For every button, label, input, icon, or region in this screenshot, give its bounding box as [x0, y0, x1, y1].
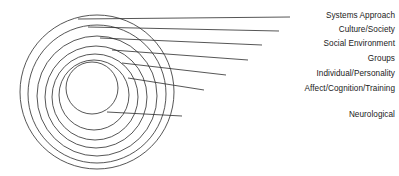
rings-group [20, 15, 174, 169]
ring-ring-5 [52, 54, 138, 140]
ring-label-6: Neurological [349, 110, 395, 120]
leader-lines-group [78, 17, 290, 116]
leader-line-0 [78, 17, 290, 19]
ring-label-4: Individual/Personality [317, 69, 395, 79]
ring-innermost [66, 62, 118, 114]
ring-label-0: Systems Approach [326, 11, 395, 21]
leader-line-1 [88, 27, 279, 31]
ring-label-5: Affect/Cognition/Training [305, 84, 395, 94]
leader-line-2 [100, 38, 262, 45]
leader-line-3 [112, 50, 248, 60]
onion-diagram: Systems ApproachCulture/SocietySocial En… [0, 0, 399, 176]
ring-label-3: Groups [368, 54, 395, 64]
ring-ring-4 [45, 46, 147, 148]
leader-line-4 [122, 63, 226, 75]
ring-ring-6 [59, 60, 129, 130]
ring-label-2: Social Environment [324, 39, 395, 49]
ring-outermost [20, 15, 174, 169]
ring-label-1: Culture/Society [339, 25, 395, 35]
